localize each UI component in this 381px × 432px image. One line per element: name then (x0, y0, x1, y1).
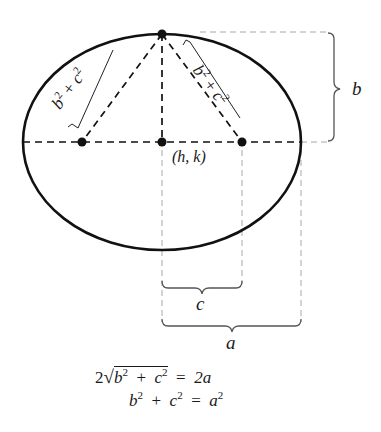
a-brace (162, 319, 301, 332)
eq2-b: b (129, 391, 138, 410)
b-label: b (352, 78, 362, 100)
left-focal-line (82, 34, 162, 142)
eq1-plus: + (136, 368, 146, 387)
eq2-rhs: a (209, 391, 218, 410)
eq1-rhs: 2a (194, 368, 211, 387)
eq2-plus: + (152, 391, 162, 410)
eq2-c: c (170, 391, 178, 410)
braces (162, 33, 340, 332)
eq1-radical-sign: √ (104, 366, 114, 387)
eq2-c-exp: 2 (177, 389, 183, 401)
eq2-a-exp: 2 (218, 389, 224, 401)
eq1-b-exp: 2 (122, 366, 128, 378)
equation-2: b2 + c2 = a2 (129, 391, 223, 411)
left-focus-dot (78, 138, 87, 147)
eq2-equals: = (191, 391, 201, 410)
eq1-coefficient: 2 (95, 368, 104, 387)
center-label: (h, k) (172, 148, 206, 166)
equation-1: 2√b2 + c2 = 2a (95, 366, 211, 388)
eq2-b-exp: 2 (138, 389, 144, 401)
eq1-c-exp: 2 (162, 366, 168, 378)
guide-lines (162, 32, 328, 322)
c-label: c (196, 293, 204, 315)
eq1-equals: = (176, 368, 186, 387)
eq1-radicand: b2 + c2 (114, 366, 168, 387)
center-label-text: (h, k) (172, 148, 206, 165)
eq1-c: c (155, 368, 163, 387)
top-vertex-dot (158, 30, 167, 39)
a-label: a (226, 332, 236, 354)
center-dot (158, 138, 167, 147)
b-brace (328, 33, 340, 141)
right-focus-dot (238, 138, 247, 147)
